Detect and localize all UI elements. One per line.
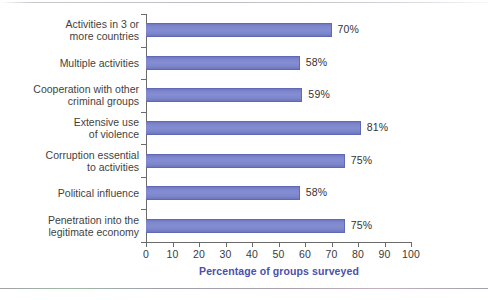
category-label: Cooperation with other criminal groups	[0, 83, 139, 107]
x-axis-tick	[279, 243, 280, 247]
x-axis-tick	[226, 243, 227, 247]
y-axis-tick	[141, 209, 146, 210]
x-axis-tick	[411, 243, 412, 247]
bar-chart: 0102030405060708090100 Activities in 3 o…	[0, 0, 488, 300]
bar-value-label: 81%	[367, 121, 389, 133]
x-axis-tick	[305, 243, 306, 247]
y-axis-tick	[141, 14, 146, 15]
x-axis-tick	[332, 243, 333, 247]
category-label: Extensive use of violence	[0, 116, 139, 140]
category-label: Penetration into the legitimate economy	[0, 214, 139, 238]
category-label: Activities in 3 or more countries	[0, 18, 139, 42]
bar-value-label: 75%	[351, 154, 373, 166]
x-axis-tick	[358, 243, 359, 247]
x-axis-tick	[252, 243, 253, 247]
bar-value-label: 58%	[306, 186, 328, 198]
x-axis-tick	[173, 243, 174, 247]
bar	[146, 88, 302, 102]
bar-value-label: 59%	[308, 88, 330, 100]
x-axis-title: Percentage of groups surveyed	[146, 265, 412, 277]
y-axis-tick	[141, 47, 146, 48]
category-label: Multiple activities	[0, 57, 139, 69]
scan-artifact-top-line	[0, 2, 488, 3]
x-axis-tick	[199, 243, 200, 247]
bar	[146, 154, 345, 168]
category-label: Political influence	[0, 187, 139, 199]
category-label: Corruption essential to activities	[0, 149, 139, 173]
bar	[146, 121, 361, 135]
bar-value-label: 58%	[306, 56, 328, 68]
bar	[146, 23, 332, 37]
bar	[146, 186, 300, 200]
y-axis-tick	[141, 177, 146, 178]
x-axis-tick	[146, 243, 147, 247]
y-axis-tick	[141, 144, 146, 145]
y-axis-tick	[141, 112, 146, 113]
y-axis-tick	[141, 79, 146, 80]
bar	[146, 219, 345, 233]
x-axis-tick	[385, 243, 386, 247]
bar	[146, 56, 300, 70]
bar-value-label: 75%	[351, 219, 373, 231]
x-axis-tick-label: 100	[391, 248, 431, 260]
scan-artifact-bottom-line	[0, 288, 488, 289]
bar-value-label: 70%	[338, 23, 360, 35]
